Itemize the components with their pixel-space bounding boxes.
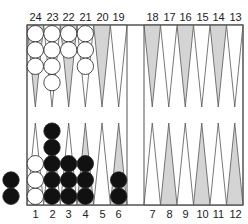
- black-checker[interactable]: [44, 156, 60, 172]
- white-checker[interactable]: [27, 58, 43, 74]
- point-label: 19: [110, 11, 127, 23]
- black-checker[interactable]: [60, 172, 76, 188]
- point-label: 9: [177, 208, 194, 220]
- point-label: 23: [44, 11, 61, 23]
- white-checker[interactable]: [27, 42, 43, 58]
- point-label: 11: [210, 208, 227, 220]
- point-label: 14: [210, 11, 227, 23]
- white-checker[interactable]: [77, 58, 93, 74]
- point-label: 12: [227, 208, 244, 220]
- white-checker[interactable]: [27, 188, 43, 204]
- point-label: 16: [177, 11, 194, 23]
- white-checker[interactable]: [44, 74, 60, 90]
- white-checker[interactable]: [44, 58, 60, 74]
- point-label: 7: [144, 208, 161, 220]
- white-checker[interactable]: [60, 26, 76, 42]
- white-checker[interactable]: [77, 26, 93, 42]
- point-label: 5: [94, 208, 111, 220]
- black-checker[interactable]: [44, 123, 60, 139]
- point-label: 15: [194, 11, 211, 23]
- point-label: 24: [27, 11, 44, 23]
- white-checker[interactable]: [27, 26, 43, 42]
- point-label: 21: [77, 11, 94, 23]
- black-checker[interactable]: [44, 188, 60, 204]
- point-label: 13: [227, 11, 244, 23]
- point-label: 2: [44, 208, 61, 220]
- white-checker[interactable]: [44, 42, 60, 58]
- black-checker[interactable]: [110, 172, 126, 188]
- point-label: 1: [27, 208, 44, 220]
- white-checker[interactable]: [44, 26, 60, 42]
- white-checker[interactable]: [60, 42, 76, 58]
- board-graphic: [0, 0, 248, 224]
- black-checker[interactable]: [77, 188, 93, 204]
- point-label: 3: [60, 208, 77, 220]
- white-checker[interactable]: [77, 42, 93, 58]
- black-checker[interactable]: [110, 188, 126, 204]
- point-label: 22: [60, 11, 77, 23]
- black-checker[interactable]: [60, 188, 76, 204]
- black-checker[interactable]: [60, 156, 76, 172]
- point-label: 4: [77, 208, 94, 220]
- black-checker[interactable]: [44, 139, 60, 155]
- borne-off-black-checker: [3, 188, 19, 204]
- point-label: 20: [94, 11, 111, 23]
- black-checker[interactable]: [77, 156, 93, 172]
- point-label: 17: [161, 11, 178, 23]
- point-label: 10: [194, 208, 211, 220]
- white-checker[interactable]: [27, 172, 43, 188]
- black-checker[interactable]: [44, 172, 60, 188]
- point-label: 6: [110, 208, 127, 220]
- point-label: 8: [161, 208, 178, 220]
- point-label: 18: [144, 11, 161, 23]
- borne-off-black-checker: [3, 172, 19, 188]
- white-checker[interactable]: [27, 156, 43, 172]
- black-checker[interactable]: [77, 172, 93, 188]
